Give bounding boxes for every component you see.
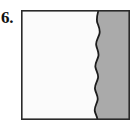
shaded-region-fill bbox=[95, 10, 130, 120]
figure-box bbox=[21, 10, 130, 120]
figure-screenshot: 6. bbox=[0, 0, 135, 130]
figure-number-label: 6. bbox=[1, 9, 13, 26]
divided-square-graphic bbox=[21, 10, 130, 120]
